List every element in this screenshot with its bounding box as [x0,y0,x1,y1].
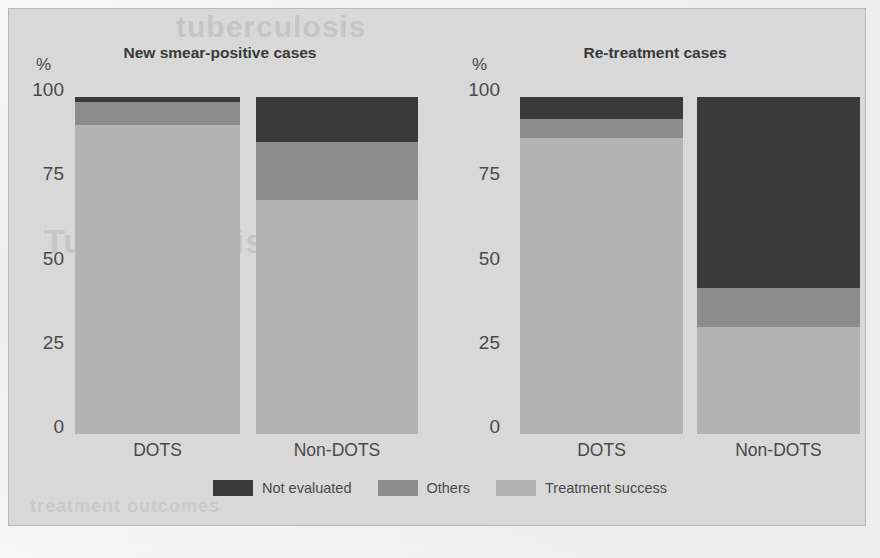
panel-left-y-axis-unit: % [36,55,51,75]
bar-right-dots[interactable] [520,97,683,434]
segment-others [256,142,418,200]
segment-others [75,102,240,125]
bar-right-non-dots[interactable] [697,97,860,434]
legend-swatch-treatment-success-icon [496,480,536,496]
panel-left-xlabel-non-dots: Non-DOTS [256,440,418,461]
legend-item-others[interactable]: Others [378,480,471,496]
bar-left-dots[interactable] [75,97,240,434]
legend-label-treatment-success: Treatment success [545,480,667,496]
legend-item-not-evaluated[interactable]: Not evaluated [213,480,351,496]
segment-treatment-success [697,327,860,434]
segment-not-evaluated [697,97,860,288]
segment-others [697,288,860,327]
panel-right-title: Re-treatment cases [460,44,850,62]
segment-others [520,119,683,138]
segment-not-evaluated [520,97,683,119]
chart-legend: Not evaluated Others Treatment success [0,480,880,496]
panel-left-xlabel-dots: DOTS [75,440,240,461]
panel-right-plot-area [448,97,880,434]
bar-left-non-dots[interactable] [256,97,418,434]
legend-item-treatment-success[interactable]: Treatment success [496,480,667,496]
panel-new-smear-positive: New smear-positive cases % 100 75 50 25 … [8,0,448,470]
chart-figure: tuberculosis Tuberculosis treatment outc… [0,0,880,558]
panel-left-plot-area [8,97,448,434]
panel-left-title: New smear-positive cases [30,44,410,62]
legend-swatch-others-icon [378,480,418,496]
segment-not-evaluated [256,97,418,142]
legend-label-not-evaluated: Not evaluated [262,480,351,496]
panel-right-y-axis-unit: % [472,55,487,75]
panel-right-xlabel-non-dots: Non-DOTS [697,440,860,461]
panel-right-xlabel-dots: DOTS [520,440,683,461]
panel-re-treatment: Re-treatment cases % 100 75 50 25 0 DOTS… [448,0,880,470]
segment-treatment-success [520,138,683,434]
segment-treatment-success [75,125,240,434]
segment-treatment-success [256,200,418,434]
legend-swatch-not-evaluated-icon [213,480,253,496]
legend-label-others: Others [427,480,471,496]
